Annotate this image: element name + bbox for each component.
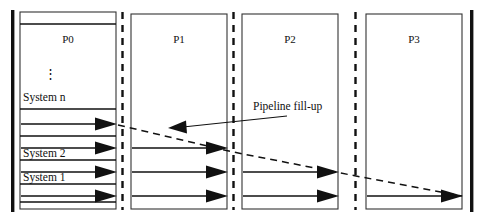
- stage-p2-label: P2: [284, 33, 296, 45]
- left-boundary-bar: [11, 10, 14, 212]
- pipeline-fillup-label: Pipeline fill-up: [253, 100, 323, 113]
- row-label-system-n: System n: [23, 91, 66, 104]
- stage-p3[interactable]: P3: [366, 14, 462, 209]
- row-label-system-1: System 1: [23, 171, 66, 184]
- vertical-ellipsis: ⋮: [44, 66, 57, 81]
- stage-p3-label: P3: [408, 33, 420, 45]
- stage-p1-label: P1: [173, 33, 185, 45]
- stage-p1[interactable]: P1: [131, 14, 227, 209]
- figure-canvas: P0 ⋮ System n System 2 System 1 P1 P2 P3: [0, 0, 486, 221]
- stage-p0[interactable]: P0 ⋮ System n System 2 System 1: [20, 12, 116, 209]
- pipeline-diagram: P0 ⋮ System n System 2 System 1 P1 P2 P3: [0, 0, 486, 221]
- row-label-system-2: System 2: [23, 147, 66, 160]
- stage-p0-label: P0: [62, 33, 74, 45]
- right-boundary-bar: [470, 10, 473, 212]
